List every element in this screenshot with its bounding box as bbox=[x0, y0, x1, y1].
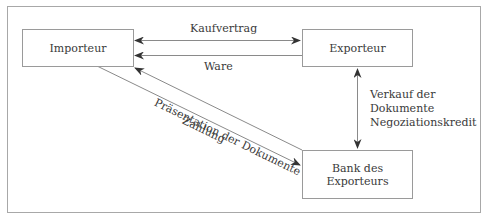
negotiation-label-line2: Dokumente bbox=[370, 102, 476, 116]
bank-node: Bank des Exporteurs bbox=[302, 150, 413, 199]
importer-label: Importeur bbox=[50, 42, 107, 55]
negotiation-label-line1: Verkauf der bbox=[370, 88, 476, 102]
purchase-contract-label: Kaufvertrag bbox=[190, 22, 257, 35]
exporter-node: Exporteur bbox=[302, 29, 413, 67]
importer-node: Importeur bbox=[22, 29, 134, 67]
exporter-label: Exporteur bbox=[329, 42, 385, 55]
bank-label-line2: Exporteurs bbox=[326, 175, 388, 188]
bank-label-line1: Bank des bbox=[332, 162, 383, 175]
goods-label: Ware bbox=[204, 60, 233, 73]
trade-finance-diagram: Importeur Exporteur Bank des Exporteurs … bbox=[0, 0, 491, 221]
negotiation-label-line3: Negoziationskredit bbox=[370, 116, 476, 130]
negotiation-label: Verkauf der Dokumente Negoziationskredit bbox=[370, 88, 476, 130]
